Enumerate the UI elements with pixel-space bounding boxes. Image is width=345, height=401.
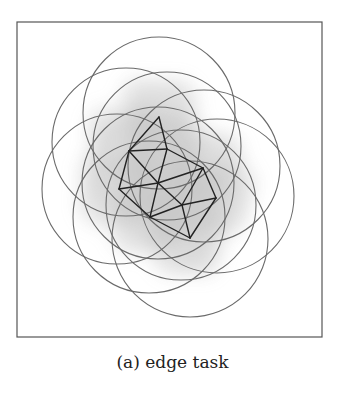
density-blob	[86, 106, 126, 146]
edge-task-diagram	[0, 0, 345, 345]
figure-caption: (a) edge task	[0, 352, 345, 372]
